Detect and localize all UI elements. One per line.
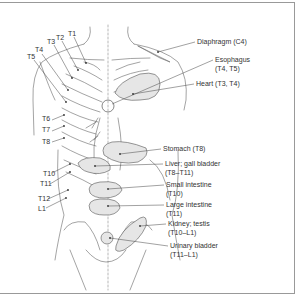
- label-small-intestine: Small intestine: [166, 181, 212, 189]
- neck-left: [84, 27, 90, 44]
- torso-illustration: [0, 0, 304, 306]
- label-t11: T11: [40, 180, 52, 188]
- label-urinary-bladder-segments: (T11–L1): [170, 251, 198, 259]
- label-esophagus: Esophagus: [215, 56, 250, 64]
- label-t6: T6: [42, 115, 50, 123]
- pelvis-left: [64, 222, 100, 250]
- organ-heart: [115, 73, 160, 100]
- referred-pain-diagram: Diaphragm (C4) Esophagus (T4, T5) Heart …: [0, 0, 304, 306]
- label-small-intestine-segments: (T10): [166, 190, 183, 198]
- label-kidney-segments: (T10–L1): [168, 229, 196, 237]
- label-t10: T10: [43, 170, 55, 178]
- label-l1: L1: [38, 205, 46, 213]
- organ-small-intestine: [89, 182, 122, 198]
- label-esophagus-segments: (T4, T5): [215, 65, 240, 73]
- flank-left: [55, 150, 64, 260]
- label-large-intestine-segments: (T11): [166, 210, 182, 218]
- label-large-intestine: Large intestine: [166, 201, 212, 209]
- label-kidney: Kidney; testis: [168, 220, 210, 228]
- label-urinary-bladder: Urinary bladder: [170, 242, 218, 250]
- label-t4: T4: [35, 46, 43, 54]
- label-t2: T2: [56, 34, 64, 42]
- organ-large-intestine: [89, 199, 120, 215]
- shoulder-left: [33, 44, 84, 135]
- label-t3: T3: [47, 38, 55, 46]
- label-t7: T7: [42, 126, 50, 134]
- label-t1: T1: [68, 30, 76, 38]
- label-t8: T8: [42, 138, 50, 146]
- label-diaphragm: Diaphragm (C4): [197, 38, 247, 46]
- label-t5: T5: [27, 53, 35, 61]
- label-heart: Heart (T3, T4): [196, 80, 240, 88]
- organ-stomach: [103, 142, 147, 163]
- label-liver-segments: (T8–T11): [165, 169, 193, 177]
- label-stomach: Stomach (T8): [163, 145, 205, 153]
- neck-right: [128, 27, 134, 44]
- label-liver: Liver; gall bladder: [165, 160, 220, 168]
- label-t12: T12: [38, 195, 50, 203]
